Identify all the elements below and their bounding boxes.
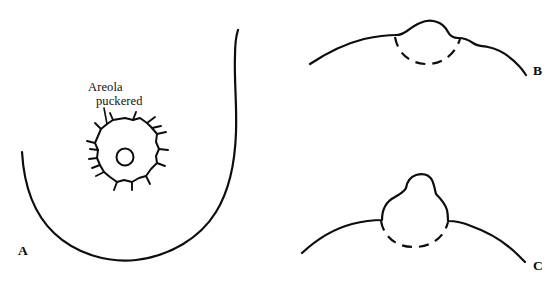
panel-letter-c: C <box>533 258 543 273</box>
breast-outline-frontal <box>22 30 238 261</box>
areola-pucker-spikes <box>87 112 168 190</box>
illustration-svg: Areola puckered A B C <box>0 0 559 286</box>
subsurface-arc-c <box>381 221 448 247</box>
breast-profile-outline-b <box>310 21 526 75</box>
subsurface-arc-b <box>395 37 460 64</box>
panel-c-group: C <box>302 174 543 273</box>
panel-letter-b: B <box>533 63 542 78</box>
panel-b-group: B <box>310 21 542 78</box>
breast-profile-outline-c <box>302 174 525 262</box>
figure-canvas: Areola puckered A B C <box>0 0 559 286</box>
areola-leader-line <box>104 108 107 124</box>
areola-label-line1: Areola <box>88 80 123 94</box>
panel-a-group: Areola puckered A <box>18 30 238 261</box>
panel-letter-a: A <box>18 243 28 258</box>
nipple-circle <box>117 149 134 166</box>
areola-label-line2: puckered <box>96 94 143 108</box>
